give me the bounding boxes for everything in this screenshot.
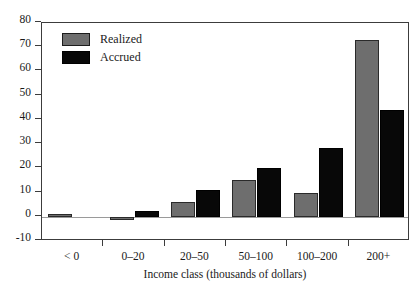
- chart-legend: Realized Accrued: [62, 31, 182, 67]
- y-tick-label: 10: [20, 183, 32, 195]
- x-axis-label: 20–50: [180, 249, 209, 263]
- x-axis-label: 0–20: [122, 249, 145, 263]
- legend-label-accrued: Accrued: [100, 49, 141, 66]
- bar-realized: [232, 180, 256, 216]
- y-tick-label: 50: [20, 86, 32, 98]
- x-tick-mark: [225, 240, 226, 246]
- bar-accrued: [135, 211, 159, 217]
- x-axis-labels: < 00–2020–5050–100100–200200+: [41, 249, 409, 265]
- y-tick-label: 80: [20, 13, 32, 25]
- legend-entry-realized: Realized: [62, 31, 182, 48]
- bar-realized: [110, 217, 134, 221]
- x-axis-label: 100–200: [297, 249, 337, 263]
- x-axis-label: 200+: [366, 249, 390, 263]
- bar-accrued: [257, 168, 281, 216]
- y-tick-label: 0: [25, 207, 31, 219]
- bar-accrued: [380, 110, 404, 217]
- legend-entry-accrued: Accrued: [62, 49, 182, 66]
- x-tick-mark: [102, 240, 103, 246]
- y-axis: -1001020304050607080: [0, 22, 41, 240]
- x-tick-mark: [286, 240, 287, 246]
- y-tick-label: -10: [16, 231, 31, 243]
- y-tick-label: 30: [20, 134, 32, 146]
- y-tick-label: 60: [20, 61, 32, 73]
- legend-label-realized: Realized: [100, 31, 142, 48]
- bar-realized: [294, 193, 318, 217]
- x-tick-mark: [348, 240, 349, 246]
- y-tick-label: 20: [20, 158, 32, 170]
- bar-realized: [48, 214, 72, 216]
- bar-realized: [171, 202, 195, 217]
- zero-baseline: [42, 217, 408, 218]
- x-axis-title: Income class (thousands of dollars): [41, 267, 409, 281]
- y-tick-label: 70: [20, 37, 32, 49]
- bar-realized: [355, 40, 379, 217]
- legend-swatch-realized: [62, 33, 90, 46]
- x-axis-label: < 0: [64, 249, 79, 263]
- x-axis-ticks: [41, 240, 409, 246]
- bar-accrued: [319, 148, 343, 217]
- y-tick-label: 40: [20, 110, 32, 122]
- legend-swatch-accrued: [62, 51, 90, 64]
- bar-chart: -1001020304050607080 < 00–2020–5050–1001…: [0, 0, 420, 290]
- x-tick-mark: [164, 240, 165, 246]
- bar-accrued: [196, 190, 220, 217]
- x-axis-label: 50–100: [238, 249, 273, 263]
